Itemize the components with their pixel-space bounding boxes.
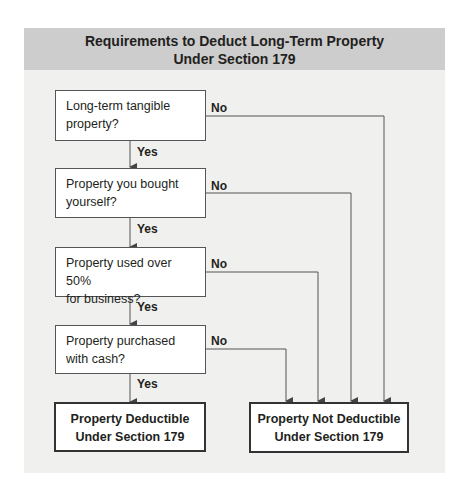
question-text: Property purchased <box>66 332 195 350</box>
question-text: property? <box>66 115 195 133</box>
outcome-text: Under Section 179 <box>251 428 407 446</box>
outcome-deductible: Property Deductible Under Section 179 <box>54 402 206 452</box>
question-box-bought-yourself: Property you bought yourself? <box>55 168 206 218</box>
yes-label: Yes <box>137 222 158 236</box>
question-text: Property used over 50% <box>66 254 195 290</box>
question-text: for business? <box>66 290 195 308</box>
outcome-not-deductible: Property Not Deductible Under Section 17… <box>249 402 409 453</box>
no-label: No <box>211 179 227 193</box>
question-text: with cash? <box>66 350 195 368</box>
question-text: Long-term tangible <box>66 97 195 115</box>
question-text: yourself? <box>66 193 195 211</box>
outcome-text: Property Not Deductible <box>251 410 407 428</box>
question-box-long-term-tangible: Long-term tangible property? <box>55 90 206 141</box>
yes-label: Yes <box>137 300 158 314</box>
outcome-text: Under Section 179 <box>56 428 204 446</box>
no-label: No <box>211 334 227 348</box>
yes-label: Yes <box>137 145 158 159</box>
no-label: No <box>211 257 227 271</box>
question-text: Property you bought <box>66 175 195 193</box>
yes-label: Yes <box>137 377 158 391</box>
no-label: No <box>211 101 227 115</box>
outcome-text: Property Deductible <box>56 410 204 428</box>
question-box-purchased-cash: Property purchased with cash? <box>55 325 206 374</box>
question-box-business-use: Property used over 50% for business? <box>55 247 206 297</box>
